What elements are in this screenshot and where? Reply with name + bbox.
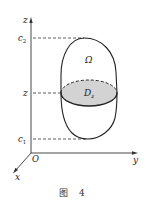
figure-caption: 图 4 — [59, 188, 89, 198]
x-axis-label: x — [15, 172, 20, 182]
figure-diagram: z c2 z c1 O y x Ω Dz 图 4 — [0, 0, 148, 208]
z-axis-arrow-icon — [29, 17, 32, 23]
c2-label: c2 — [18, 33, 26, 44]
origin-label: O — [32, 154, 39, 164]
y-axis-label: y — [132, 155, 139, 165]
c1-label: c1 — [18, 134, 26, 145]
z-level-label: z — [22, 88, 28, 98]
x-axis — [15, 153, 31, 171]
z-axis-label: z — [22, 15, 28, 25]
region-omega-label: Ω — [84, 55, 93, 65]
